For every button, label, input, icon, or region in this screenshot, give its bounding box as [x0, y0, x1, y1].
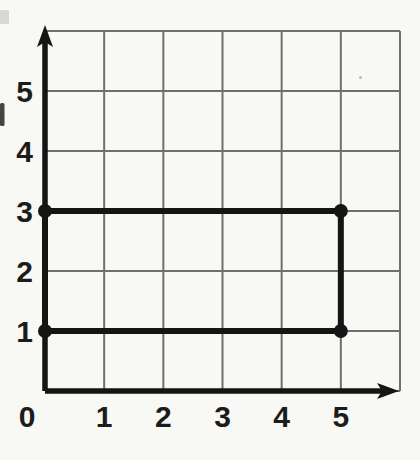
x-tick-label-1: 1 [96, 400, 113, 433]
paper-speck [359, 76, 362, 79]
vertex-dot-5-3 [334, 204, 348, 218]
y-tick-label-1: 1 [16, 315, 33, 348]
x-tick-label-5: 5 [332, 400, 349, 433]
x-tick-label-3: 3 [214, 400, 231, 433]
coordinate-grid-svg: 01234512345 [0, 0, 420, 460]
x-tick-label-2: 2 [155, 400, 172, 433]
y-tick-label-3: 3 [16, 195, 33, 228]
x-tick-label-4: 4 [273, 400, 290, 433]
vertex-dot-0-3 [38, 204, 52, 218]
y-tick-label-2: 2 [16, 255, 33, 288]
left-edge-text-fragment [0, 103, 5, 126]
vertex-dot-5-1 [334, 324, 348, 338]
vertex-dot-0-1 [38, 324, 52, 338]
y-tick-label-5: 5 [16, 75, 33, 108]
y-tick-label-4: 4 [16, 135, 33, 168]
x-tick-label-0: 0 [19, 400, 36, 433]
worksheet-figure: 01234512345 [0, 0, 420, 460]
top-left-smudge [0, 10, 9, 24]
